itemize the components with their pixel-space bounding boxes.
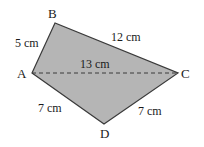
side-label-cd: 7 cm xyxy=(138,104,162,118)
side-label-bc: 12 cm xyxy=(111,30,141,44)
vertex-label-a: A xyxy=(17,66,27,81)
vertex-label-c: C xyxy=(181,66,190,81)
vertex-label-b: B xyxy=(48,6,57,21)
side-label-da: 7 cm xyxy=(38,101,62,115)
side-label-ab: 5 cm xyxy=(15,36,39,50)
vertex-label-d: D xyxy=(100,126,109,141)
quadrilateral-diagram: A B C D 5 cm 12 cm 13 cm 7 cm 7 cm xyxy=(0,0,204,147)
diagonal-label-ac: 13 cm xyxy=(80,57,110,71)
